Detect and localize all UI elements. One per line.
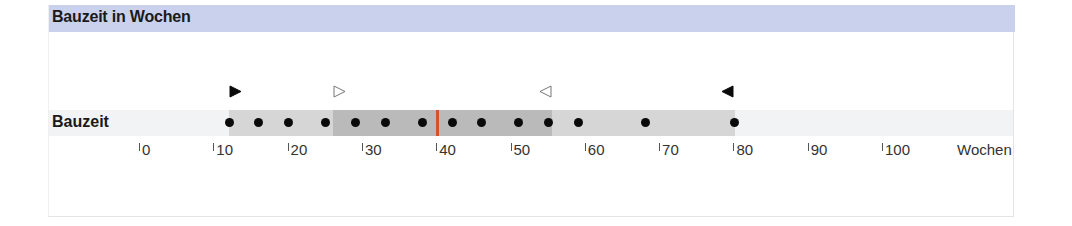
x-tick-label: 100	[882, 141, 910, 158]
x-tick-label: 60	[585, 141, 605, 158]
data-point	[730, 118, 739, 127]
tick-mark	[659, 143, 660, 151]
tick-mark	[585, 143, 586, 151]
data-point	[641, 118, 650, 127]
tick-mark	[288, 143, 289, 151]
x-tick-label: 90	[808, 141, 828, 158]
chart-header: Bauzeit in Wochen	[49, 5, 1015, 32]
chart-panel: Bauzeit in Wochen Bauzeit 01020304050607…	[48, 5, 1014, 217]
x-tick-label: 30	[362, 141, 382, 158]
x-tick-label: 0	[139, 141, 150, 158]
row-label: Bauzeit	[52, 113, 109, 131]
x-tick-label: 40	[436, 141, 456, 158]
x-tick-label: 20	[288, 141, 308, 158]
median-line	[436, 110, 439, 136]
data-point	[225, 118, 234, 127]
tick-mark	[139, 143, 140, 151]
tick-mark	[882, 143, 883, 151]
tick-mark	[436, 143, 437, 151]
data-point	[381, 118, 390, 127]
x-tick-label: 50	[511, 141, 531, 158]
tick-mark	[511, 143, 512, 151]
x-axis-unit-label: Wochen	[957, 141, 1012, 158]
chart-title: Bauzeit in Wochen	[52, 8, 191, 26]
hollow-right-triangle-icon	[333, 84, 346, 97]
filled-left-triangle-icon	[721, 84, 734, 97]
tick-mark	[213, 143, 214, 151]
filled-right-triangle-icon	[229, 84, 242, 97]
data-point	[448, 118, 457, 127]
x-tick-label: 80	[733, 141, 753, 158]
tick-mark	[362, 143, 363, 151]
x-tick-label: 10	[213, 141, 233, 158]
data-point	[418, 118, 427, 127]
data-point	[574, 118, 583, 127]
tick-mark	[808, 143, 809, 151]
tick-mark	[733, 143, 734, 151]
x-tick-label: 70	[659, 141, 679, 158]
hollow-left-triangle-icon	[539, 84, 552, 97]
data-point	[351, 118, 360, 127]
